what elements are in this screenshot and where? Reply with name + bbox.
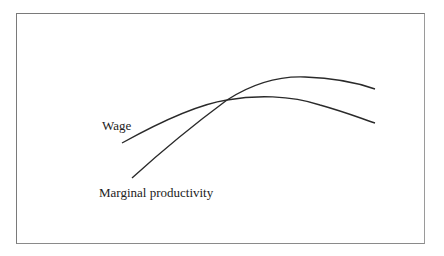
wage-label: Wage — [102, 118, 131, 134]
marginal-productivity-label: Marginal productivity — [99, 185, 213, 201]
marginal-productivity-curve — [132, 77, 375, 178]
wage-curve — [122, 97, 375, 143]
diagram-plot — [0, 0, 444, 256]
